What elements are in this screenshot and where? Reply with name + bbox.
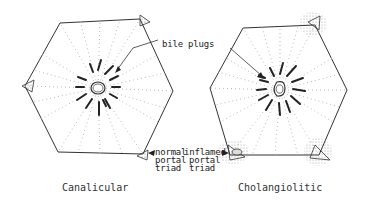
bile-plugs-label: bile plugs <box>162 40 214 48</box>
left-lobule <box>22 15 173 160</box>
caption-canalicular: Canalicular <box>62 182 128 193</box>
right-lobule <box>210 12 347 166</box>
inflamed-triad-label-3: triad <box>189 164 215 172</box>
caption-cholangiolitic: Cholangiolitic <box>238 182 322 193</box>
diagram-canvas <box>0 0 365 203</box>
normal-triad-label-3: triad <box>155 164 181 172</box>
